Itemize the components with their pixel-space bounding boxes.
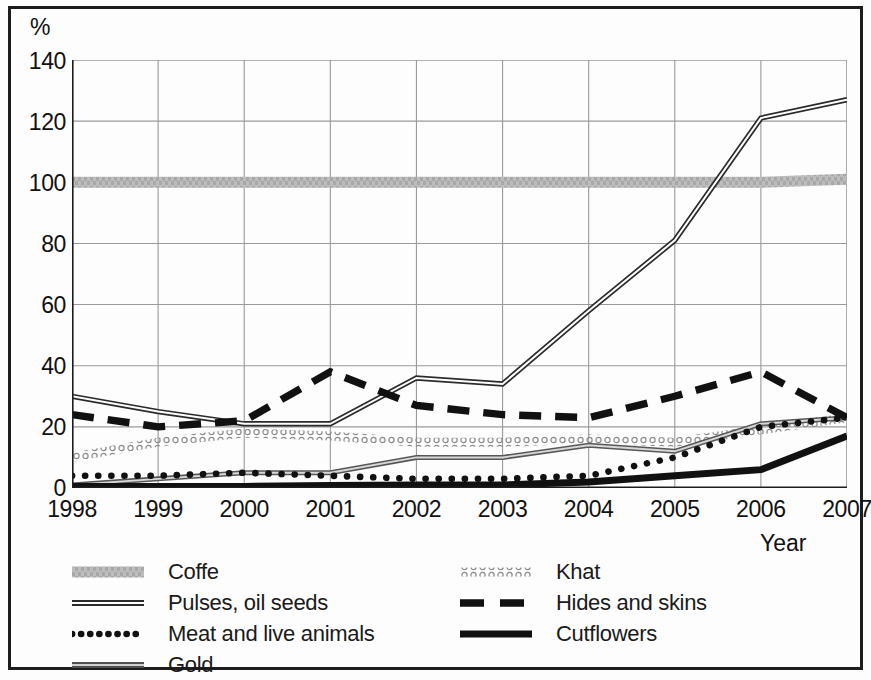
legend-label: Coffe — [168, 559, 219, 585]
legend-item-left-3[interactable]: Gold — [72, 649, 472, 680]
y-tick-80: 80 — [6, 231, 66, 258]
x-axis-tick-labels: 1998199920002001200220032004200520062007 — [72, 496, 862, 530]
legend-label: Pulses, oil seeds — [168, 590, 328, 616]
legend-column-left: CoffePulses, oil seedsMeat and live anim… — [72, 556, 472, 680]
legend-item-right-2[interactable]: Cutflowers — [460, 618, 860, 649]
legend-label: Gold — [168, 652, 213, 678]
y-tick-140: 140 — [6, 48, 66, 75]
legend-swatch-icon — [72, 563, 144, 581]
legend-label: Meat and live animals — [168, 621, 374, 647]
legend-swatch-icon — [460, 594, 532, 612]
chart-legend: CoffePulses, oil seedsMeat and live anim… — [72, 556, 862, 668]
plot-area — [72, 60, 847, 488]
legend-swatch-icon — [460, 625, 532, 643]
legend-swatch-icon — [72, 594, 144, 612]
y-tick-40: 40 — [6, 353, 66, 380]
legend-column-right: KhatHides and skinsCutflowers — [460, 556, 860, 649]
legend-swatch-icon — [72, 656, 144, 674]
x-axis-title: Year — [760, 530, 806, 557]
series-lines — [72, 100, 847, 487]
legend-label: Cutflowers — [556, 621, 657, 647]
x-tick-2007: 2007 — [822, 496, 871, 523]
x-tick-2006: 2006 — [736, 496, 786, 523]
y-tick-100: 100 — [6, 170, 66, 197]
x-tick-2004: 2004 — [564, 496, 614, 523]
x-tick-1999: 1999 — [133, 496, 183, 523]
x-tick-2005: 2005 — [650, 496, 700, 523]
y-tick-60: 60 — [6, 292, 66, 319]
x-tick-2000: 2000 — [219, 496, 269, 523]
legend-item-left-1[interactable]: Pulses, oil seeds — [72, 587, 472, 618]
y-tick-20: 20 — [6, 414, 66, 441]
legend-label: Khat — [556, 559, 600, 585]
legend-item-left-0[interactable]: Coffe — [72, 556, 472, 587]
y-axis-tick-labels: 140 120 100 80 60 40 20 0 — [0, 0, 66, 680]
x-tick-2002: 2002 — [392, 496, 442, 523]
legend-item-right-1[interactable]: Hides and skins — [460, 587, 860, 618]
legend-item-right-0[interactable]: Khat — [460, 556, 860, 587]
x-tick-1998: 1998 — [47, 496, 97, 523]
x-tick-2001: 2001 — [306, 496, 356, 523]
legend-item-left-2[interactable]: Meat and live animals — [72, 618, 472, 649]
legend-label: Hides and skins — [556, 590, 707, 616]
chart-figure: % 140 120 100 80 60 40 20 0 — [0, 0, 871, 680]
legend-swatch-icon — [72, 625, 144, 643]
legend-swatch-icon — [460, 563, 532, 581]
x-tick-2003: 2003 — [478, 496, 528, 523]
y-tick-120: 120 — [6, 109, 66, 136]
